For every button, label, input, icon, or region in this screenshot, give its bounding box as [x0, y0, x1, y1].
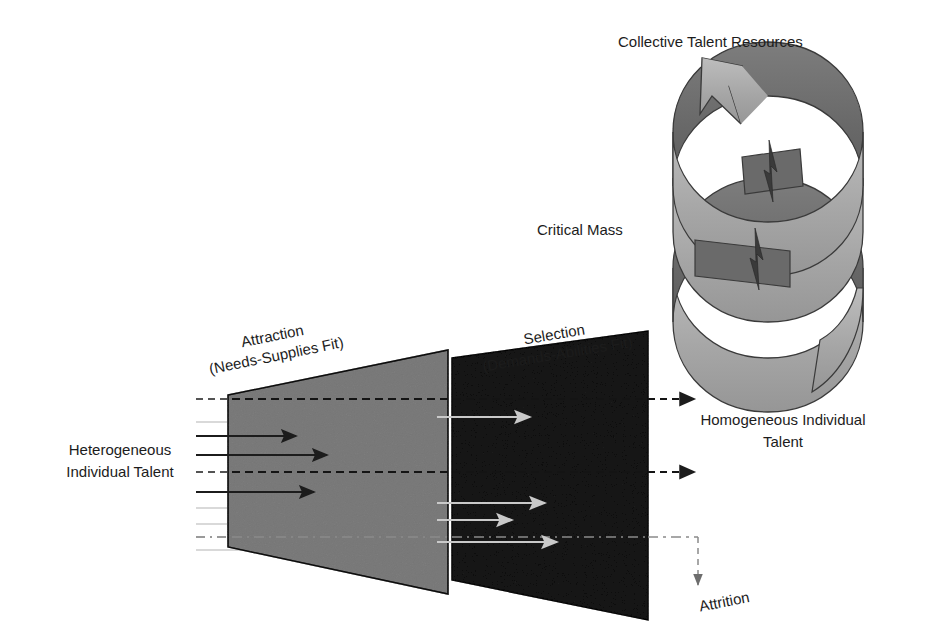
heterogeneous-label-line2: Individual Talent — [66, 463, 174, 480]
asa-model-diagram: Collective Talent Resources Critical Mas… — [0, 0, 926, 632]
homogeneous-label-line2: Talent — [763, 433, 804, 450]
diagram-canvas: Collective Talent Resources Critical Mas… — [0, 0, 926, 632]
heterogeneous-label-line1: Heterogeneous — [69, 441, 172, 458]
homogeneous-label-line1: Homogeneous Individual — [700, 411, 865, 428]
collective-talent-resources-label: Collective Talent Resources — [618, 33, 803, 50]
selection-trapezoid — [452, 331, 648, 620]
critical-mass-label: Critical Mass — [537, 221, 623, 238]
